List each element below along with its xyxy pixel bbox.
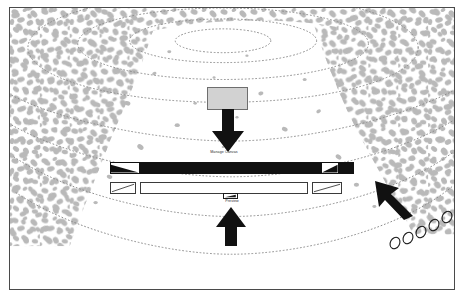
annotation-layer: Manage Canvas [10,8,454,289]
main-bar-segment-left [139,162,233,174]
main-bar-segment-right [233,162,321,174]
main-bar-tip-right [338,162,354,174]
trail-ellipses [388,204,455,250]
up-arrow [215,207,247,247]
lower-bar-cap-left [110,182,136,194]
main-bar[interactable] [110,160,354,175]
lower-label: Preview [225,200,238,204]
figure-canvas: Manage Canvas [0,0,464,299]
lower-bar-cap-right [312,182,342,194]
specimen-box[interactable] [207,87,248,110]
figure-frame: Manage Canvas [9,7,455,290]
upper-label: Manage Canvas [210,151,237,155]
main-bar-cap-right [321,162,339,174]
down-arrow [211,109,245,153]
main-bar-cap-left [110,162,140,174]
